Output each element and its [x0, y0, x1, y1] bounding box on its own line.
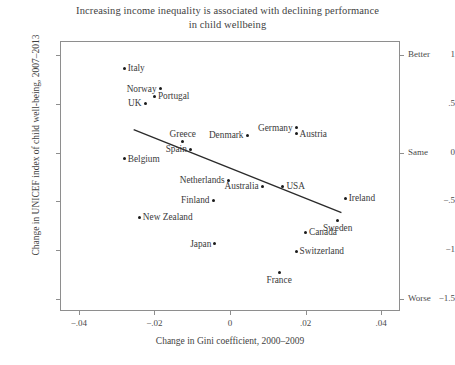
- data-point-label: Belgium: [128, 154, 160, 164]
- y-tick-mark: [56, 104, 60, 105]
- x-tick-label: .02: [286, 318, 326, 328]
- data-point-label: Denmark: [209, 130, 244, 140]
- chart-title-line-2: in child wellbeing: [0, 18, 455, 32]
- x-tick-label: −.02: [134, 318, 174, 328]
- data-point: [246, 134, 249, 137]
- data-point-label: UK: [128, 98, 141, 108]
- y-tick-mark: [56, 250, 60, 251]
- data-point-label: USA: [286, 181, 305, 191]
- x-tick-label: −.04: [59, 318, 99, 328]
- chart-figure: Increasing income inequality is associat…: [0, 0, 455, 365]
- secondary-y-tick-mark: [400, 153, 404, 154]
- data-point-label: Netherlands: [180, 175, 225, 185]
- x-tick-label: 0: [210, 318, 250, 328]
- data-point-label: Japan: [190, 239, 211, 249]
- data-point-label: Greece: [170, 129, 196, 139]
- data-point: [344, 197, 347, 200]
- data-point: [189, 148, 192, 151]
- x-tick-mark: [381, 311, 382, 315]
- data-point-label: New Zealand: [143, 212, 193, 222]
- data-point: [261, 185, 264, 188]
- chart-title-line-1: Increasing income inequality is associat…: [0, 4, 455, 18]
- data-point-label: Ireland: [349, 193, 375, 203]
- y-tick-label: .5: [419, 98, 455, 108]
- chart-title: Increasing income inequality is associat…: [0, 4, 455, 31]
- x-axis-label: Change in Gini coefficient, 2000–2009: [60, 336, 400, 346]
- y-tick-mark: [56, 55, 60, 56]
- data-point-label: Germany: [258, 123, 293, 133]
- data-point-label: Norway: [127, 84, 157, 94]
- x-tick-mark: [154, 311, 155, 315]
- data-point: [212, 199, 215, 202]
- y-tick-mark: [56, 153, 60, 154]
- x-tick-mark: [230, 311, 231, 315]
- secondary-y-tick-label: Same: [408, 147, 428, 157]
- data-point: [153, 95, 156, 98]
- secondary-y-tick-label: Worse: [408, 293, 431, 303]
- x-tick-mark: [79, 311, 80, 315]
- data-point-label: Canada: [309, 227, 337, 237]
- data-point: [138, 216, 141, 219]
- data-point-label: Austria: [300, 129, 327, 139]
- data-point: [336, 219, 339, 222]
- plot-area: [60, 41, 400, 311]
- x-tick-label: .04: [361, 318, 401, 328]
- data-point: [295, 126, 298, 129]
- data-point-label: Switzerland: [300, 246, 344, 256]
- data-point-label: Australia: [225, 181, 259, 191]
- data-point: [278, 271, 281, 274]
- data-point: [304, 231, 307, 234]
- data-point: [144, 102, 147, 105]
- y-tick-mark: [56, 201, 60, 202]
- data-point-label: Italy: [128, 63, 145, 73]
- data-point-label: Portugal: [158, 91, 190, 101]
- y-tick-label: −1: [419, 244, 455, 254]
- data-point-label: Spain: [166, 144, 187, 154]
- x-tick-mark: [306, 311, 307, 315]
- data-point-label: Finland: [181, 195, 209, 205]
- data-point-label: France: [266, 275, 291, 285]
- secondary-y-tick-mark: [400, 55, 404, 56]
- data-point: [123, 67, 126, 70]
- y-tick-label: −.5: [419, 195, 455, 205]
- y-axis-label: Change in UNICEF index of child well-bei…: [31, 5, 41, 285]
- y-tick-mark: [56, 299, 60, 300]
- data-point: [295, 250, 298, 253]
- secondary-y-tick-label: Better: [408, 49, 430, 59]
- secondary-y-tick-mark: [400, 299, 404, 300]
